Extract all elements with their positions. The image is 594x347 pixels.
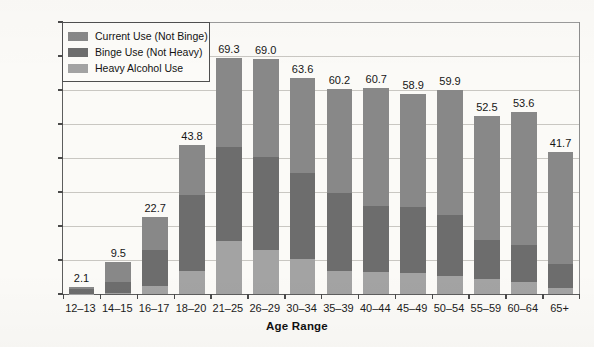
bar-segment[interactable] [253,250,279,294]
bar-stack[interactable] [290,78,316,294]
x-axis-tick-label: 40–44 [357,302,394,314]
bar-segment[interactable] [400,207,426,273]
bar-segment[interactable] [363,88,389,207]
x-axis-tick-label: 35–39 [320,302,357,314]
y-axis-tick [58,89,63,90]
bar-segment[interactable] [363,206,389,272]
x-axis-tick-label: 30–34 [283,302,320,314]
bar-segment[interactable] [253,157,279,250]
bar-segment[interactable] [105,282,131,293]
bar-segment[interactable] [400,94,426,207]
bar-value-label: 53.6 [513,97,534,109]
bar-segment[interactable] [179,195,205,270]
gridline [63,226,579,227]
legend-item: Current Use (Not Binge) [68,28,203,44]
legend-item: Heavy Alcohol Use [68,60,203,76]
bar-segment[interactable] [142,217,168,250]
bar-value-label: 63.6 [292,63,313,75]
bar-segment[interactable] [105,293,131,294]
bar-stack[interactable] [400,94,426,294]
y-axis-tick [58,225,63,226]
bar-segment[interactable] [548,264,574,287]
bar-segment[interactable] [437,215,463,276]
bar-value-label: 60.2 [329,74,350,86]
x-axis-tick-label: 21–25 [209,302,246,314]
bar-segment[interactable] [216,147,242,241]
bar-segment[interactable] [474,279,500,294]
bar-stack[interactable] [253,59,279,294]
x-axis-tick-label: 55–59 [467,302,504,314]
bar-segment[interactable] [437,90,463,214]
bar-segment[interactable] [179,145,205,195]
bar-stack[interactable] [363,88,389,294]
bar-segment[interactable] [363,272,389,294]
bar-stack[interactable] [69,287,95,294]
bar-stack[interactable] [105,262,131,294]
x-axis-tick [505,294,506,299]
bar-segment[interactable] [69,287,95,289]
bar-stack[interactable] [511,112,537,294]
bar-segment[interactable] [69,289,95,294]
bar-segment[interactable] [216,241,242,294]
x-axis-tick-label: 50–54 [431,302,468,314]
legend-label-binge-use: Binge Use (Not Heavy) [95,46,202,58]
x-axis-tick [468,294,469,299]
bar-stack[interactable] [327,89,353,294]
bar-segment[interactable] [511,282,537,294]
bar-segment[interactable] [142,286,168,295]
bar-stack[interactable] [548,152,574,294]
bar-value-label: 2.1 [74,272,89,284]
x-axis-tick [137,294,138,299]
bar-value-label: 9.5 [111,247,126,259]
x-axis-tick [321,294,322,299]
bar-segment[interactable] [327,89,353,193]
bar-segment[interactable] [327,193,353,271]
bar-stack[interactable] [179,145,205,294]
x-axis-tick-label: 26–29 [246,302,283,314]
bar-value-label: 43.8 [181,130,202,142]
bar-segment[interactable] [290,259,316,294]
gridline [63,90,579,91]
bar-segment[interactable] [290,173,316,259]
legend: Current Use (Not Binge) Binge Use (Not H… [62,22,210,82]
bar-segment[interactable] [142,250,168,286]
x-axis-tick [542,294,543,299]
x-axis-tick [100,294,101,299]
bar-segment[interactable] [474,116,500,240]
legend-swatch-binge-use [68,48,88,57]
bar-segment[interactable] [548,152,574,264]
bar-stack[interactable] [142,217,168,294]
x-axis-tick-label: 14–15 [99,302,136,314]
bar-value-label: 58.9 [402,79,423,91]
bar-segment[interactable] [400,273,426,294]
y-axis-title: Percent Using in Past Month [0,0,6,44]
bar-value-label: 59.9 [439,75,460,87]
bar-segment[interactable] [327,271,353,294]
bar-segment[interactable] [290,78,316,174]
bar-value-label: 41.7 [550,137,571,149]
x-axis-tick-label: 45–49 [394,302,431,314]
bar-segment[interactable] [548,288,574,294]
bar-segment[interactable] [179,271,205,294]
bar-segment[interactable] [216,58,242,146]
bar-segment[interactable] [105,262,131,282]
bar-value-label: 60.7 [366,73,387,85]
bar-segment[interactable] [511,112,537,245]
bar-segment[interactable] [253,59,279,157]
bar-segment[interactable] [511,245,537,282]
x-axis-tick [174,294,175,299]
x-axis-tick [579,294,580,299]
x-axis-tick [284,294,285,299]
bar-stack[interactable] [437,90,463,294]
bar-stack[interactable] [216,58,242,294]
bar-segment[interactable] [474,240,500,280]
gridline [63,124,579,125]
bar-value-label: 69.3 [218,43,239,55]
y-axis-tick [58,259,63,260]
x-axis-tick [432,294,433,299]
bar-value-label: 69.0 [255,44,276,56]
y-axis-tick [58,123,63,124]
bar-value-label: 52.5 [476,101,497,113]
bar-stack[interactable] [474,116,500,295]
bar-segment[interactable] [437,276,463,294]
